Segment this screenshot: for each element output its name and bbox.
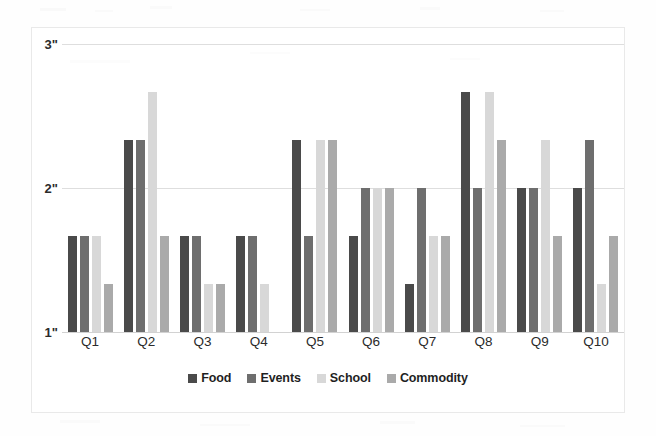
- legend-item-commodity[interactable]: Commodity: [387, 371, 468, 385]
- bar-school-q6[interactable]: [373, 188, 382, 332]
- legend-label: Events: [260, 371, 300, 385]
- bar-group-q6: [343, 44, 399, 332]
- bar-events-q4[interactable]: [248, 236, 257, 332]
- x-axis: Q1Q2Q3Q4Q5Q6Q7Q8Q9Q10: [62, 334, 624, 349]
- bar-food-q9[interactable]: [517, 188, 526, 332]
- bar-food-q6[interactable]: [349, 236, 358, 332]
- bar-school-q3[interactable]: [204, 284, 213, 332]
- bar-commodity-q2[interactable]: [160, 236, 169, 332]
- bar-commodity-q8[interactable]: [497, 140, 506, 332]
- x-axis-tick-label-q2: Q2: [118, 334, 174, 349]
- bar-chart: 3"2"1" Q1Q2Q3Q4Q5Q6Q7Q8Q9Q10 FoodEventsS…: [0, 0, 656, 436]
- x-axis-tick-label-q4: Q4: [231, 334, 287, 349]
- bar-group-q8: [455, 44, 511, 332]
- legend-swatch-icon: [317, 374, 326, 383]
- y-axis-tick-label: 1": [28, 325, 58, 340]
- bar-school-q2[interactable]: [148, 92, 157, 332]
- x-axis-tick-label-q8: Q8: [455, 334, 511, 349]
- bar-food-q7[interactable]: [405, 284, 414, 332]
- x-axis-tick-label-q7: Q7: [399, 334, 455, 349]
- bar-group-q1: [62, 44, 118, 332]
- bar-school-q10[interactable]: [597, 284, 606, 332]
- bar-group-q10: [568, 44, 624, 332]
- gridline-1: [62, 332, 624, 333]
- bar-group-q9: [512, 44, 568, 332]
- bar-events-q1[interactable]: [80, 236, 89, 332]
- bar-school-q1[interactable]: [92, 236, 101, 332]
- x-axis-tick-label-q1: Q1: [62, 334, 118, 349]
- bar-school-q8[interactable]: [485, 92, 494, 332]
- bar-events-q3[interactable]: [192, 236, 201, 332]
- y-axis-tick-label: 3": [28, 37, 58, 52]
- x-axis-tick-label-q10: Q10: [568, 334, 624, 349]
- bar-food-q5[interactable]: [292, 140, 301, 332]
- bar-events-q5[interactable]: [304, 236, 313, 332]
- bar-commodity-q6[interactable]: [385, 188, 394, 332]
- chart-legend: FoodEventsSchoolCommodity: [0, 371, 656, 385]
- legend-label: Commodity: [400, 371, 468, 385]
- bar-food-q8[interactable]: [461, 92, 470, 332]
- bar-group-q5: [287, 44, 343, 332]
- legend-swatch-icon: [247, 374, 256, 383]
- bar-food-q3[interactable]: [180, 236, 189, 332]
- bar-events-q7[interactable]: [417, 188, 426, 332]
- x-axis-tick-label-q3: Q3: [174, 334, 230, 349]
- bar-food-q10[interactable]: [573, 188, 582, 332]
- legend-label: Food: [201, 371, 231, 385]
- bar-events-q9[interactable]: [529, 188, 538, 332]
- bar-group-q2: [118, 44, 174, 332]
- bar-commodity-q3[interactable]: [216, 284, 225, 332]
- legend-swatch-icon: [387, 374, 396, 383]
- bar-food-q2[interactable]: [124, 140, 133, 332]
- legend-item-food[interactable]: Food: [188, 371, 231, 385]
- bar-commodity-q7[interactable]: [441, 236, 450, 332]
- bar-commodity-q5[interactable]: [328, 140, 337, 332]
- bar-commodity-q1[interactable]: [104, 284, 113, 332]
- bar-food-q1[interactable]: [68, 236, 77, 332]
- x-axis-tick-label-q5: Q5: [287, 334, 343, 349]
- bar-school-q5[interactable]: [316, 140, 325, 332]
- bar-events-q6[interactable]: [361, 188, 370, 332]
- legend-item-events[interactable]: Events: [247, 371, 300, 385]
- y-axis-tick-label: 2": [28, 181, 58, 196]
- legend-swatch-icon: [188, 374, 197, 383]
- bar-commodity-q9[interactable]: [553, 236, 562, 332]
- bar-commodity-q10[interactable]: [609, 236, 618, 332]
- bar-group-q7: [399, 44, 455, 332]
- x-axis-tick-label-q9: Q9: [512, 334, 568, 349]
- bar-events-q10[interactable]: [585, 140, 594, 332]
- legend-item-school[interactable]: School: [317, 371, 371, 385]
- bar-group-q3: [174, 44, 230, 332]
- bar-school-q9[interactable]: [541, 140, 550, 332]
- bar-school-q7[interactable]: [429, 236, 438, 332]
- bar-events-q2[interactable]: [136, 140, 145, 332]
- bar-food-q4[interactable]: [236, 236, 245, 332]
- legend-label: School: [330, 371, 371, 385]
- bar-group-q4: [231, 44, 287, 332]
- bar-school-q4[interactable]: [260, 284, 269, 332]
- bars-layer: [62, 44, 624, 332]
- bar-events-q8[interactable]: [473, 188, 482, 332]
- x-axis-tick-label-q6: Q6: [343, 334, 399, 349]
